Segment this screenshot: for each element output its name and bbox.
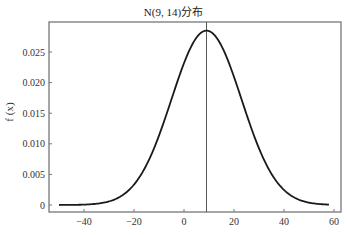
x-tick-label: 20 (229, 216, 239, 227)
y-tick-label: 0.020 (23, 77, 46, 88)
x-tick-label: 0 (182, 216, 187, 227)
plot-area: −40−20020406000.0050.0100.0150.0200.025 (0, 0, 347, 235)
x-tick-label: 60 (329, 216, 339, 227)
x-tick-label: −40 (76, 216, 92, 227)
y-tick-label: 0.025 (23, 47, 46, 58)
x-tick-label: −20 (126, 216, 142, 227)
plot-frame (49, 22, 341, 212)
y-tick-label: 0.015 (23, 108, 46, 119)
y-tick-label: 0 (40, 200, 45, 211)
y-tick-label: 0.005 (23, 169, 46, 180)
y-tick-label: 0.010 (23, 138, 46, 149)
pdf-curve (59, 31, 329, 205)
x-tick-label: 40 (279, 216, 289, 227)
